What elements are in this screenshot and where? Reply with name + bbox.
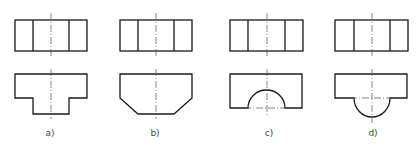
- front-view-c: [230, 69, 302, 117]
- front-view-a: [15, 69, 87, 119]
- label-c: c): [265, 128, 273, 138]
- top-view-d: [335, 13, 408, 58]
- panel-d: [335, 13, 408, 123]
- panel-c: [230, 13, 303, 117]
- label-b: b): [150, 128, 159, 138]
- front-view-b: [120, 69, 192, 119]
- top-view-c: [230, 13, 303, 58]
- label-a: a): [45, 128, 54, 138]
- technical-drawing: [0, 0, 420, 149]
- panel-a: [15, 13, 87, 119]
- panel-b: [120, 13, 192, 119]
- top-view-b: [120, 13, 192, 58]
- top-view-a: [15, 13, 87, 58]
- front-view-d: [335, 69, 407, 123]
- label-d: d): [368, 128, 377, 138]
